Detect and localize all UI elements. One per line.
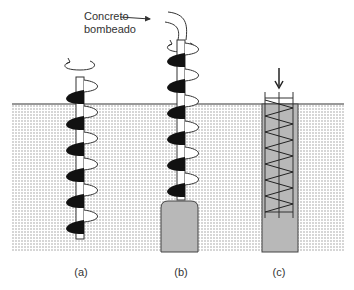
panel-label-b: (b) bbox=[166, 266, 196, 278]
panel-label-c: (c) bbox=[264, 266, 294, 278]
panel-label-a: (a) bbox=[66, 266, 96, 278]
concrete-pile-b bbox=[161, 201, 198, 252]
down-arrow-icon bbox=[275, 68, 283, 88]
rotation-arrow-icon bbox=[65, 58, 95, 70]
concrete-callout: Concreto bombeado bbox=[84, 10, 136, 36]
auger-pile-diagram bbox=[0, 0, 354, 290]
pile-c bbox=[262, 68, 298, 252]
